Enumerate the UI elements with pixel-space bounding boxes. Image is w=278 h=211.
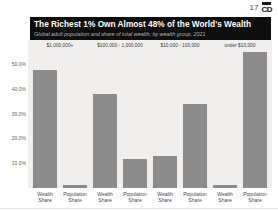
y-axis-tick-3: 20.0% — [0, 135, 26, 141]
page-header: 17 CD — [250, 2, 272, 14]
chart-title-banner: The Richest 1% Own Almost 48% of the Wor… — [30, 17, 271, 40]
bar-wealth-share-group-0 — [33, 70, 57, 188]
bar-wealth-share-group-1 — [93, 94, 117, 188]
x-axis-label-3: Population Share — [120, 191, 150, 203]
publisher-logo: CD — [261, 2, 272, 14]
group-label-2: $10,000 - 100,000 — [150, 43, 210, 48]
page-bottom-divider — [0, 208, 278, 209]
group-label-0: $1,000,000+ — [30, 43, 90, 48]
bar-population-share-group-3 — [243, 52, 267, 188]
x-axis-label-7: Population Share — [240, 191, 270, 203]
y-axis-tick-0: 50.0% — [0, 61, 26, 67]
page-number: 17 — [250, 2, 259, 14]
group-label-3: under $10,000 — [210, 43, 270, 48]
bar-population-share-group-0 — [63, 185, 87, 188]
bar-chart-plot-area: $1,000,000+$100,000 - 1,000,000$10,000 -… — [28, 40, 272, 188]
bar-population-share-group-2 — [183, 104, 207, 188]
chart-subtitle: Global adult population and share of tot… — [34, 31, 271, 37]
x-axis-label-6: Wealth Share — [210, 191, 240, 203]
logo-text: CD — [261, 6, 272, 14]
y-axis-tick-2: 30.0% — [0, 111, 26, 117]
x-axis-label-0: Wealth Share — [30, 191, 60, 203]
y-axis-tick-1: 40.0% — [0, 86, 26, 92]
y-axis-tick-4: 10.0% — [0, 160, 26, 166]
x-axis-label-2: Wealth Share — [90, 191, 120, 203]
chart-title: The Richest 1% Own Almost 48% of the Wor… — [34, 19, 271, 29]
x-axis-label-4: Wealth Share — [150, 191, 180, 203]
slide-page: 17 CD The Richest 1% Own Almost 48% of t… — [0, 0, 278, 211]
group-label-1: $100,000 - 1,000,000 — [90, 43, 150, 48]
x-axis-label-1: Population Share — [60, 191, 90, 203]
bar-population-share-group-1 — [123, 159, 147, 188]
x-axis-label-5: Population Share — [180, 191, 210, 203]
bar-wealth-share-group-2 — [153, 156, 177, 188]
bar-wealth-share-group-3 — [213, 185, 237, 188]
